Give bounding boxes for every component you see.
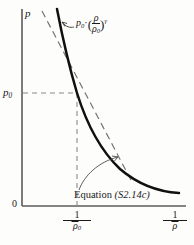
y-tick-p0: p0	[3, 87, 12, 100]
curve-label-num: ρ	[92, 13, 100, 23]
x-tick-inverse-rho: 1 ρ	[163, 210, 187, 231]
origin-label: 0	[12, 199, 17, 209]
curve-label-den: ρ0	[92, 23, 100, 35]
x-tick-right-numerator: 1	[163, 210, 187, 220]
curve-equation-label: p0·( ρ ρ0 )γ	[76, 13, 107, 35]
equation-annotation: Equation (S2.14c)	[74, 190, 150, 201]
x-tick-left-den-base: ρ	[73, 220, 78, 231]
x-tick-left-numerator: 1	[63, 210, 91, 220]
x-tick-right-denominator: ρ	[163, 220, 187, 231]
equation-annotation-ref: (S2.14c)	[115, 189, 150, 200]
pressure-density-isentrope-figure: p p0 0 p0·( ρ ρ0 )γ Equation (S2.14c) 1 …	[0, 0, 194, 245]
y-tick-p0-subscript: 0	[9, 92, 13, 100]
isentrope-curve	[57, 9, 179, 193]
tangent-line-dashed	[42, 11, 132, 182]
equation-annotation-word: Equation	[74, 189, 112, 200]
plot-canvas	[0, 0, 194, 245]
x-tick-left-den-sub: 0	[78, 225, 81, 232]
y-axis-title: p	[25, 8, 31, 19]
x-tick-inverse-rho-zero: 1 ρ0	[63, 210, 91, 232]
x-tick-right-den-base: ρ	[173, 220, 178, 231]
curve-label-exponent: γ	[104, 17, 106, 24]
x-tick-left-denominator: ρ0	[63, 220, 91, 232]
